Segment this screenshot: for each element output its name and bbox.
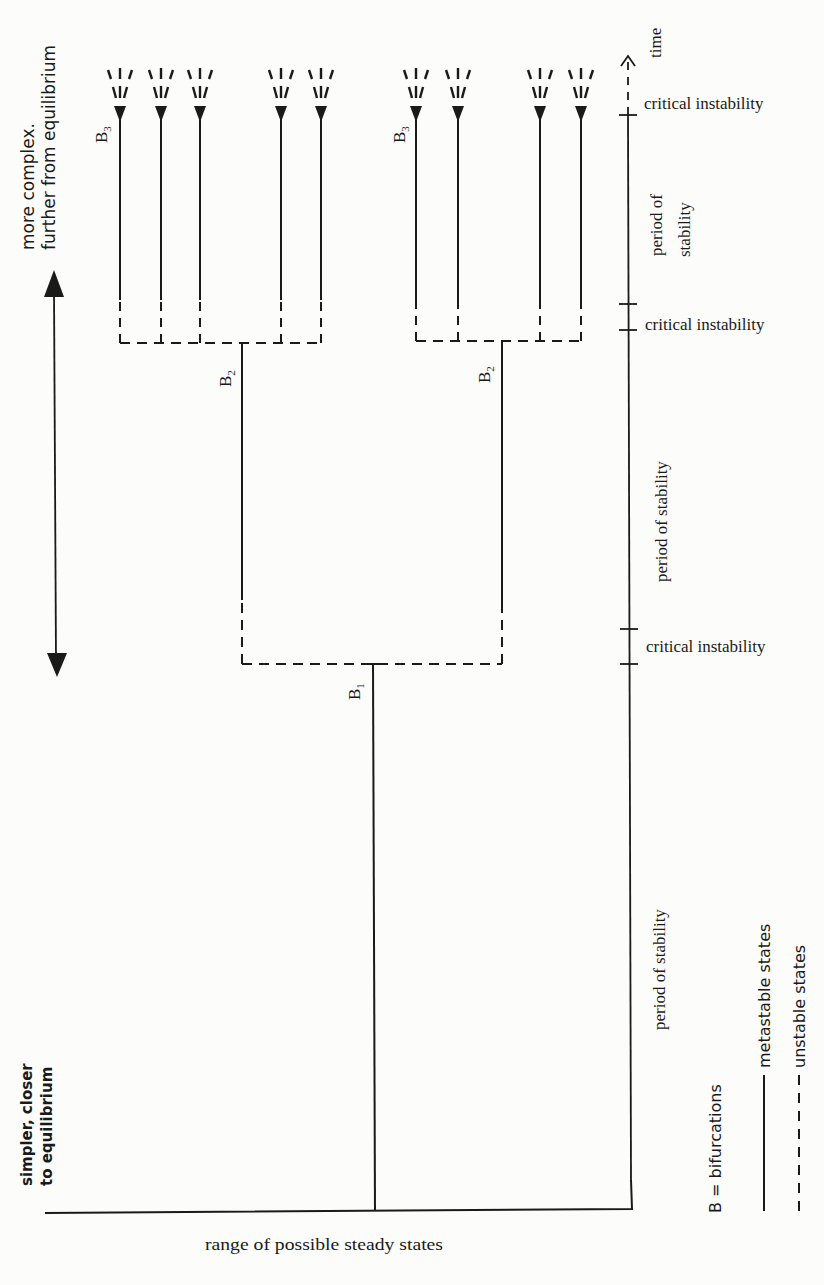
b3-branch: [309, 68, 333, 343]
time-axis: [619, 56, 638, 1180]
arrow-down-icon: [47, 653, 67, 677]
stability-label-3-line2: stability: [675, 202, 694, 257]
complexity-high-label-line1: more complex.: [18, 123, 38, 250]
x-axis-label: range of possible steady states: [205, 1235, 443, 1254]
legend: B = bifurcations metastable states unsta…: [706, 924, 809, 1213]
b3-branch: [108, 68, 132, 343]
stability-label-1: period of stability: [650, 909, 669, 1030]
time-axis-label: time: [646, 28, 665, 58]
critical-instability-label-1: critical instability: [646, 637, 766, 656]
b3-branch: [188, 68, 212, 343]
b2-left-label: B2: [216, 370, 237, 387]
b3-branches: [108, 68, 593, 343]
b3-branch: [269, 68, 293, 343]
fan-dashes-icon: [404, 68, 428, 98]
fan-dashes-icon: [446, 68, 470, 98]
legend-unstable: unstable states: [790, 945, 809, 1068]
svg-text:B2: B2: [216, 370, 237, 387]
bifurcation-diagram: more complex. further from equilibrium s…: [0, 0, 824, 1285]
fan-dashes-icon: [149, 68, 173, 98]
svg-text:B1: B1: [345, 683, 366, 700]
critical-instability-label-2: critical instability: [645, 315, 765, 334]
b3-right-label: B3: [390, 126, 411, 143]
b1-trunk: [365, 664, 384, 1211]
complexity-high-label-line2: further from equilibrium: [39, 45, 59, 250]
fan-dashes-icon: [309, 68, 333, 98]
complexity-low-label-line1: simpler, closer: [18, 1063, 36, 1186]
fan-dashes-icon: [528, 68, 552, 98]
critical-instability-label-3: critical instability: [644, 94, 764, 113]
b2-right-label: B2: [475, 366, 496, 383]
b3-left-label: B3: [92, 126, 113, 143]
branch-arrowhead-icon: [315, 106, 327, 122]
svg-text:B3: B3: [390, 126, 411, 143]
branch-arrowhead-icon: [452, 106, 464, 122]
fan-dashes-icon: [569, 68, 593, 98]
b1-label: B1: [345, 683, 366, 700]
fan-dashes-icon: [188, 68, 212, 98]
b3-branch: [149, 68, 173, 343]
b1-junction-unstable: [242, 600, 502, 664]
svg-text:B3: B3: [92, 126, 113, 143]
fan-dashes-icon: [108, 68, 132, 98]
branch-arrowhead-icon: [575, 106, 587, 122]
fan-dashes-icon: [269, 68, 293, 98]
stability-label-3-line1: period of: [647, 194, 666, 256]
b3-branch: [446, 68, 470, 341]
branch-arrowhead-icon: [155, 106, 167, 122]
branch-arrowhead-icon: [534, 106, 546, 122]
legend-bifurcations: B = bifurcations: [706, 1084, 725, 1213]
branch-arrowhead-icon: [410, 106, 422, 122]
b3-branch: [404, 68, 428, 341]
arrow-up-icon: [44, 270, 64, 297]
branch-arrowhead-icon: [275, 106, 287, 122]
legend-metastable: metastable states: [755, 924, 774, 1068]
svg-text:B2: B2: [475, 366, 496, 383]
steady-states-axis: [45, 1180, 632, 1213]
branch-arrowhead-icon: [194, 106, 206, 122]
stability-label-2: period of stability: [652, 461, 671, 582]
complexity-axis: [44, 270, 67, 677]
complexity-low-label-line2: to equilibrium: [38, 1067, 56, 1186]
branch-arrowhead-icon: [114, 106, 126, 122]
b3-branch: [569, 68, 593, 341]
b3-branch: [528, 68, 552, 341]
